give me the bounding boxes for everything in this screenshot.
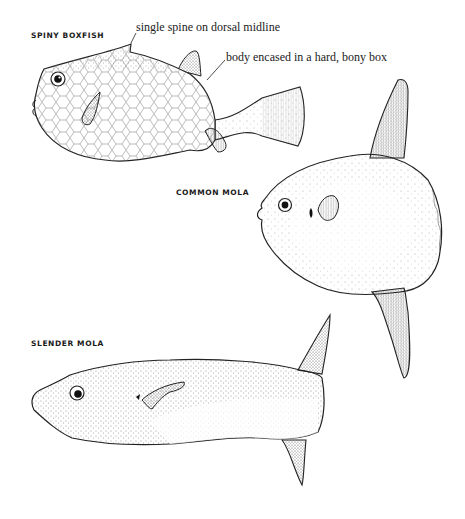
illustration-plate: SPINY BOXFISH single spine on dorsal mid…: [0, 0, 465, 519]
annotation-dorsal-spine: single spine on dorsal midline: [136, 20, 280, 35]
fish-drawings: [0, 0, 465, 519]
annotation-bony-box: body encased in a hard, bony box: [226, 50, 387, 65]
species-label-common-mola: COMMON MOLA: [176, 188, 249, 197]
species-label-slender-mola: SLENDER MOLA: [31, 339, 104, 348]
species-label-spiny-boxfish: SPINY BOXFISH: [31, 31, 104, 40]
